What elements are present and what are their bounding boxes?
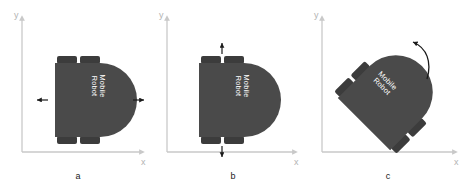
y-axis-label: y — [159, 10, 164, 20]
robot-body — [338, 40, 448, 150]
panel-b-caption: b — [155, 171, 311, 181]
wheel-rear-right — [80, 136, 100, 144]
wheel-rear-left — [201, 136, 221, 144]
robot-b: Mobile Robot — [199, 56, 281, 144]
panel-a: y x Mobile Robot a — [0, 0, 156, 185]
x-axis-label: x — [294, 157, 299, 167]
robot-c: Mobile Robot — [333, 35, 453, 155]
robot-a: Mobile Robot — [55, 56, 137, 144]
panel-c: y x Mobile Robot c — [310, 0, 466, 185]
wheel-front-left — [57, 56, 77, 64]
panel-a-caption: a — [0, 171, 156, 181]
panel-c-caption: c — [310, 171, 466, 181]
robot-body — [199, 63, 281, 137]
y-axis-label: y — [314, 10, 319, 20]
robot-body — [55, 63, 137, 137]
wheel-rear-right — [224, 136, 244, 144]
panel-a-canvas: y x Mobile Robot — [0, 0, 156, 185]
x-axis-label: x — [454, 157, 459, 167]
mobile-robot-motion-figure: y x Mobile Robot a — [0, 0, 467, 185]
panel-c-canvas: y x Mobile Robot — [310, 0, 466, 185]
wheel-rear-left — [57, 136, 77, 144]
robot-label-line2: Robot — [90, 76, 99, 97]
x-axis-label: x — [141, 157, 146, 167]
wheel-front-left — [201, 56, 221, 64]
wheel-front-right — [224, 56, 244, 64]
wheel-front-right — [80, 56, 100, 64]
panel-b: y x Mobile Robot b — [155, 0, 311, 185]
y-axis-label: y — [14, 10, 19, 20]
panel-b-canvas: y x Mobile Robot — [155, 0, 311, 185]
robot-label-line2: Robot — [234, 76, 243, 97]
